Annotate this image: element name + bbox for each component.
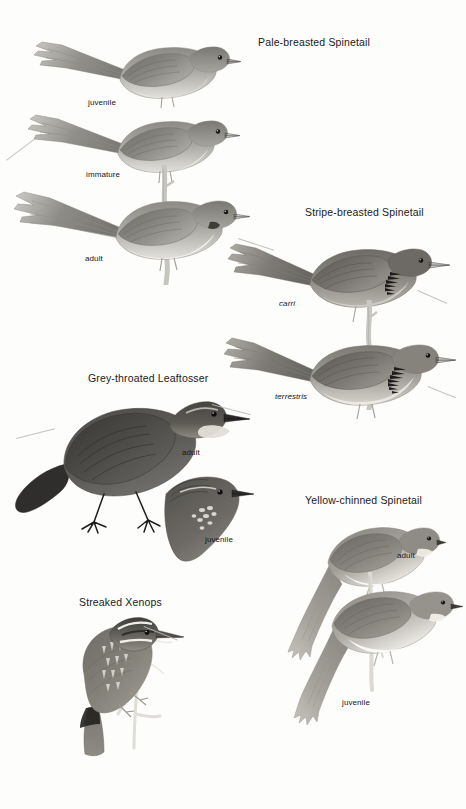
- tail: [16, 464, 69, 512]
- label-pale-breasted-immature: immature: [86, 170, 120, 179]
- label-stripe-breasted-carri: carri: [279, 299, 295, 308]
- eye: [218, 55, 222, 59]
- species-title-streaked-xenops: Streaked Xenops: [79, 596, 162, 608]
- label-pale-breasted-adult: adult: [85, 254, 103, 263]
- label-leaftosser-adult: adult: [182, 448, 200, 457]
- species-title-stripe-breasted-spinetail: Stripe-breasted Spinetail: [305, 206, 424, 218]
- eye: [441, 600, 445, 604]
- eye: [427, 536, 431, 540]
- eye: [145, 630, 150, 635]
- eye: [211, 411, 216, 416]
- tail: [14, 192, 126, 238]
- tail: [28, 115, 128, 154]
- species-title-grey-throated-leaftosser: Grey-throated Leaftosser: [88, 372, 208, 384]
- species-title-yellow-chinned-spinetail: Yellow-chinned Spinetail: [305, 494, 422, 506]
- tail: [228, 244, 318, 286]
- species-title-pale-breasted-spinetail: Pale-breasted Spinetail: [258, 36, 370, 48]
- eye: [216, 129, 220, 133]
- bird-streaked-xenops: [58, 612, 188, 757]
- bird-yellow-chinned-spinetail-juvenile: [294, 572, 464, 732]
- label-yellow-chinned-adult: adult: [397, 551, 415, 560]
- legs: [160, 258, 177, 271]
- field-guide-plate: Pale-breasted Spinetail: [0, 0, 466, 809]
- tail: [224, 338, 318, 382]
- tail: [294, 628, 348, 725]
- bird-pale-breasted-spinetail-adult: [2, 180, 252, 272]
- bird-stripe-breasted-spinetail-terrestris: [218, 326, 458, 420]
- legs: [357, 404, 375, 419]
- label-leaftosser-juvenile: juvenile: [205, 535, 233, 544]
- bird-stripe-breasted-spinetail-carri: [222, 232, 452, 324]
- eye: [224, 210, 229, 215]
- label-stripe-breasted-terrestris: terrestris: [275, 392, 307, 401]
- legs: [82, 492, 160, 533]
- eye: [426, 353, 431, 358]
- bird-pale-breasted-spinetail-immature: [12, 100, 242, 184]
- label-yellow-chinned-juvenile: juvenile: [342, 698, 370, 707]
- bird-pale-breasted-spinetail-juvenile: [22, 28, 242, 108]
- bird-grey-throated-leaftosser-juvenile: [150, 468, 260, 568]
- eye: [217, 489, 222, 494]
- throat-patch: [198, 425, 230, 438]
- tail: [34, 42, 130, 80]
- eye: [419, 258, 424, 263]
